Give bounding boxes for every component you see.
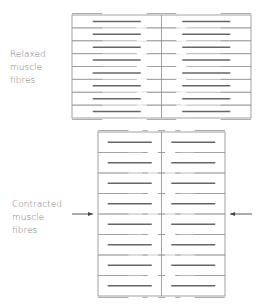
right-arrow-icon-head bbox=[230, 212, 235, 216]
muscle-fibre-diagram bbox=[0, 0, 266, 308]
left-arrow-icon-head bbox=[88, 212, 93, 216]
